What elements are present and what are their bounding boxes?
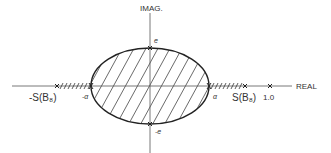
- label-right-alpha: α: [213, 93, 218, 100]
- label-top-e: e: [154, 37, 158, 44]
- label-bottom-e: -e: [155, 128, 161, 135]
- stability-region-diagram: IMAG. REAL e -e -α α -S(B₈) S(B₈) 1.0: [0, 0, 331, 153]
- label-pos-s: S(B₈): [232, 92, 256, 103]
- label-neg-s: -S(B₈): [29, 92, 56, 103]
- label-one: 1.0: [263, 93, 275, 102]
- label-left-alpha: -α: [82, 93, 89, 100]
- imag-axis-label: IMAG.: [140, 4, 163, 13]
- real-axis-label: REAL: [296, 82, 317, 91]
